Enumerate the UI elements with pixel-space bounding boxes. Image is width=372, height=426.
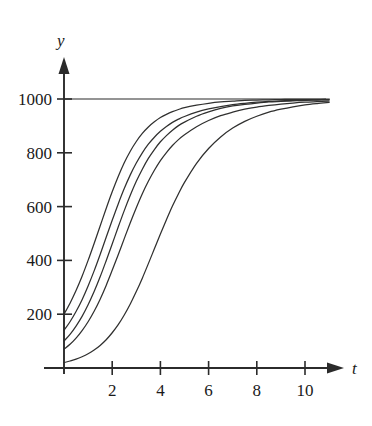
curve-4 xyxy=(64,101,329,349)
x-axis xyxy=(44,363,344,374)
y-axis-arrow-icon xyxy=(59,57,70,74)
y-tick-label: 1000 xyxy=(18,90,52,109)
x-tick-label: 6 xyxy=(204,381,213,400)
plot-svg: 2004006008001000 246810 y t xyxy=(0,0,372,426)
x-tick-label: 4 xyxy=(156,381,165,400)
y-tick-label: 400 xyxy=(27,251,53,270)
curve-group xyxy=(64,99,329,363)
y-axis-label: y xyxy=(55,31,65,50)
x-tick-group: 246810 xyxy=(108,361,314,400)
logistic-growth-figure: 2004006008001000 246810 y t xyxy=(0,0,372,426)
x-tick-label: 10 xyxy=(297,381,314,400)
curve-3 xyxy=(64,100,329,341)
x-axis-label: t xyxy=(352,359,358,378)
y-tick-label: 200 xyxy=(27,305,53,324)
curve-1 xyxy=(64,99,329,314)
x-tick-label: 8 xyxy=(253,381,262,400)
x-axis-arrow-icon xyxy=(327,363,344,374)
x-tick-label: 2 xyxy=(108,381,117,400)
curve-5 xyxy=(64,103,329,363)
y-axis xyxy=(59,57,70,374)
y-tick-label: 600 xyxy=(27,198,53,217)
y-tick-label: 800 xyxy=(27,144,53,163)
